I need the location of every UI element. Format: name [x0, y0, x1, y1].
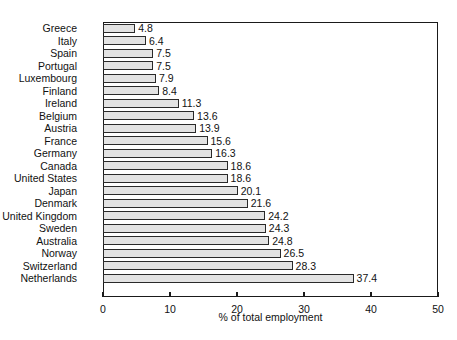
category-label: Spain [0, 47, 77, 60]
x-axis-tick [303, 292, 304, 297]
bar-row: Sweden24.3 [103, 222, 438, 235]
bar-value-label: 13.9 [199, 122, 219, 135]
category-label: Denmark [0, 197, 77, 210]
bar [103, 36, 146, 45]
bar-value-label: 8.4 [162, 85, 177, 98]
category-label: France [0, 135, 77, 148]
bar-row: Spain7.5 [103, 47, 438, 60]
category-label: Belgium [0, 110, 77, 123]
bar-row: Switzerland28.3 [103, 260, 438, 273]
bar-row: Netherlands37.4 [103, 272, 438, 285]
bar [103, 161, 228, 170]
x-axis-tick [236, 292, 237, 297]
bar [103, 61, 153, 70]
bar-value-label: 28.3 [296, 260, 316, 273]
bar-row: Australia24.8 [103, 235, 438, 248]
category-label: Japan [0, 185, 77, 198]
bar-row: Italy6.4 [103, 35, 438, 48]
category-label: Germany [0, 147, 77, 160]
bar-value-label: 7.5 [156, 47, 171, 60]
bar [103, 261, 293, 270]
bar [103, 74, 156, 83]
category-label: Switzerland [0, 260, 77, 273]
bar-value-label: 21.6 [251, 197, 271, 210]
category-label: United Kingdom [0, 210, 77, 223]
bar [103, 124, 196, 133]
category-label: Portugal [0, 60, 77, 73]
bar-row: Austria13.9 [103, 122, 438, 135]
category-label: Italy [0, 35, 77, 48]
bar [103, 86, 159, 95]
category-label: Ireland [0, 97, 77, 110]
x-axis-tick [370, 292, 371, 297]
bar [103, 236, 269, 245]
category-label: Australia [0, 235, 77, 248]
bar [103, 174, 228, 183]
bar-value-label: 4.8 [138, 22, 153, 35]
bar-row: Ireland11.3 [103, 97, 438, 110]
bar-value-label: 24.2 [268, 210, 288, 223]
bar-value-label: 13.6 [197, 110, 217, 123]
category-label: Netherlands [0, 272, 77, 285]
bar-row: Canada18.6 [103, 160, 438, 173]
bar [103, 149, 212, 158]
bar-value-label: 7.9 [159, 72, 174, 85]
bar-row: United States18.6 [103, 172, 438, 185]
bar-value-label: 20.1 [241, 185, 261, 198]
bar [103, 111, 194, 120]
x-axis-tick [102, 292, 103, 297]
bar [103, 249, 281, 258]
bar-value-label: 11.3 [182, 97, 202, 110]
bar [103, 211, 265, 220]
x-axis-tick [437, 292, 438, 297]
bar-value-label: 6.4 [149, 35, 164, 48]
x-axis-tick [169, 292, 170, 297]
bar-value-label: 24.3 [269, 222, 289, 235]
bar-row: United Kingdom24.2 [103, 210, 438, 223]
x-axis-title: % of total employment [103, 311, 438, 323]
bar [103, 224, 266, 233]
bar [103, 274, 354, 283]
category-label: Greece [0, 22, 77, 35]
bar [103, 136, 208, 145]
bar-row: Norway26.5 [103, 247, 438, 260]
category-label: Canada [0, 160, 77, 173]
bar-value-label: 18.6 [231, 160, 251, 173]
bar-row: Denmark21.6 [103, 197, 438, 210]
bar-row: Portugal7.5 [103, 60, 438, 73]
bar-row: France15.6 [103, 135, 438, 148]
bar-value-label: 18.6 [231, 172, 251, 185]
category-label: Austria [0, 122, 77, 135]
bar-row: Belgium13.6 [103, 110, 438, 123]
bar-value-label: 37.4 [357, 272, 377, 285]
bar-row: Japan20.1 [103, 185, 438, 198]
bar-row: Greece4.8 [103, 22, 438, 35]
bar-value-label: 26.5 [284, 247, 304, 260]
category-label: United States [0, 172, 77, 185]
bar-value-label: 7.5 [156, 60, 171, 73]
bar [103, 99, 179, 108]
bar-value-label: 16.3 [215, 147, 235, 160]
bar [103, 186, 238, 195]
category-label: Luxembourg [0, 72, 77, 85]
bar [103, 24, 135, 33]
bar-row: Germany16.3 [103, 147, 438, 160]
bar [103, 199, 248, 208]
figure: Greece4.8Italy6.4Spain7.5Portugal7.5Luxe… [0, 0, 457, 340]
category-label: Finland [0, 85, 77, 98]
bar [103, 49, 153, 58]
bar-row: Finland8.4 [103, 85, 438, 98]
bar-value-label: 24.8 [272, 235, 292, 248]
bar-row: Luxembourg7.9 [103, 72, 438, 85]
bar-value-label: 15.6 [211, 135, 231, 148]
category-label: Sweden [0, 222, 77, 235]
category-label: Norway [0, 247, 77, 260]
